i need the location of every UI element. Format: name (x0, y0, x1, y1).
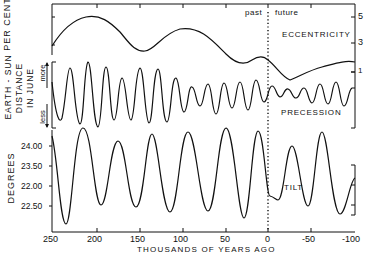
x-tick-100: 100 (173, 234, 188, 244)
tilt-tick-24-00: 24.00 (21, 141, 42, 151)
x-axis-label: THOUSANDS OF YEARS AGO (137, 245, 276, 254)
degrees-label: DEGREES (6, 148, 18, 208)
x-tick-200: 200 (87, 234, 102, 244)
x-tick-250: 250 (43, 234, 58, 244)
x-tick-0: 0 (265, 234, 270, 244)
x-tick-50: 50 (220, 234, 230, 244)
tilt-tick-22-00: 22.00 (21, 181, 42, 191)
x-tick-neg100: -100 (342, 234, 360, 244)
more-less-arrows (0, 0, 365, 254)
tilt-tick-23-50: 23.50 (21, 161, 42, 171)
tilt-tick-22-50: 22.50 (21, 201, 42, 211)
x-tick-150: 150 (130, 234, 145, 244)
x-tick-neg50: -50 (302, 234, 315, 244)
